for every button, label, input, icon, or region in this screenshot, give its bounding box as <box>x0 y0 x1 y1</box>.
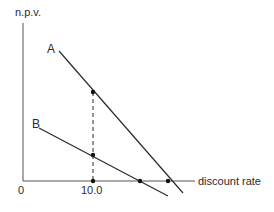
y-axis-label: n.p.v. <box>15 6 41 18</box>
x-axis-label: discount rate <box>198 175 261 187</box>
line-b-label: B <box>32 117 40 131</box>
line-a-label: A <box>47 42 55 56</box>
origin-label: 0 <box>18 184 24 196</box>
npv-diagram: n.p.v. discount rate 0 10.0 A B <box>0 0 274 212</box>
point-b-at-10 <box>91 153 95 157</box>
point-a-at-10 <box>91 90 95 94</box>
point-b-x-intercept <box>138 179 142 183</box>
point-axis-10 <box>91 179 95 183</box>
diagram-canvas: n.p.v. discount rate 0 10.0 A B <box>0 0 274 212</box>
line-b <box>39 128 168 196</box>
x-tick-label-10: 10.0 <box>81 184 102 196</box>
point-a-x-intercept <box>166 179 170 183</box>
